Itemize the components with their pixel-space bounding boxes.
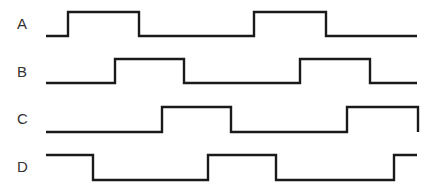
- signal-label-c: C: [17, 110, 28, 127]
- signal-waveform-c: [46, 107, 418, 132]
- timing-diagram: A B C D: [0, 0, 431, 193]
- signal-waveform-d: [46, 155, 417, 180]
- signal-waveform-b: [46, 59, 417, 83]
- signal-label-a: A: [17, 15, 27, 32]
- signal-d: D: [17, 155, 417, 180]
- signal-a: A: [17, 12, 417, 36]
- signal-label-b: B: [17, 63, 27, 80]
- signal-b: B: [17, 59, 417, 83]
- signal-label-d: D: [17, 158, 28, 175]
- signal-c: C: [17, 107, 418, 132]
- signal-waveform-a: [46, 12, 417, 36]
